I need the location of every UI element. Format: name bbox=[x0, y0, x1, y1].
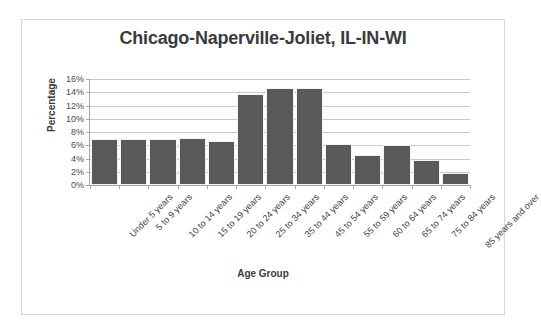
bar bbox=[413, 160, 440, 185]
x-axis-tick bbox=[148, 185, 149, 189]
x-axis-tick bbox=[119, 185, 120, 189]
x-axis-tick bbox=[412, 185, 413, 189]
chart-container: Chicago-Naperville-Joliet, IL-IN-WI Perc… bbox=[21, 19, 505, 315]
y-axis-tick bbox=[86, 132, 90, 133]
x-axis-tick bbox=[441, 185, 442, 189]
bar bbox=[325, 144, 352, 185]
y-axis-tick-label: 8% bbox=[71, 127, 84, 137]
y-axis-tick-label: 2% bbox=[71, 167, 84, 177]
y-axis-tick bbox=[86, 92, 90, 93]
bar bbox=[266, 88, 293, 185]
x-axis-tick bbox=[382, 185, 383, 189]
bar bbox=[442, 173, 469, 185]
y-axis-tick bbox=[86, 172, 90, 173]
bar bbox=[237, 94, 264, 185]
y-axis-tick-label: 0% bbox=[71, 180, 84, 190]
y-axis-tick-label: 12% bbox=[66, 101, 84, 111]
y-axis-tick bbox=[86, 119, 90, 120]
y-axis-tick bbox=[86, 159, 90, 160]
y-axis-tick bbox=[86, 106, 90, 107]
gridline bbox=[90, 79, 470, 80]
y-axis-tick-label: 10% bbox=[66, 114, 84, 124]
bar bbox=[296, 88, 323, 185]
plot-area: 0%2%4%6%8%10%12%14%16%Under 5 years5 to … bbox=[89, 79, 470, 186]
bar bbox=[91, 139, 118, 185]
y-axis-tick-label: 14% bbox=[66, 87, 84, 97]
x-axis-tick bbox=[265, 185, 266, 189]
x-axis-tick bbox=[207, 185, 208, 189]
y-axis-tick-label: 16% bbox=[66, 74, 84, 84]
bar bbox=[179, 138, 206, 185]
y-axis-tick bbox=[86, 145, 90, 146]
bar bbox=[149, 139, 176, 185]
bar bbox=[354, 155, 381, 185]
y-axis-tick bbox=[86, 79, 90, 80]
x-axis-tick bbox=[470, 185, 471, 189]
y-axis-tick-label: 4% bbox=[71, 154, 84, 164]
bar bbox=[208, 141, 235, 185]
chart-title: Chicago-Naperville-Joliet, IL-IN-WI bbox=[22, 28, 504, 49]
bar bbox=[120, 139, 147, 185]
x-axis-title: Age Group bbox=[22, 268, 504, 279]
y-axis-tick-label: 6% bbox=[71, 140, 84, 150]
x-axis-tick bbox=[295, 185, 296, 189]
x-axis-tick bbox=[353, 185, 354, 189]
x-axis-tick bbox=[178, 185, 179, 189]
x-axis-tick bbox=[90, 185, 91, 189]
x-axis-tick bbox=[324, 185, 325, 189]
y-axis-title: Percentage bbox=[46, 78, 57, 132]
bar bbox=[383, 145, 410, 185]
x-axis-tick bbox=[236, 185, 237, 189]
